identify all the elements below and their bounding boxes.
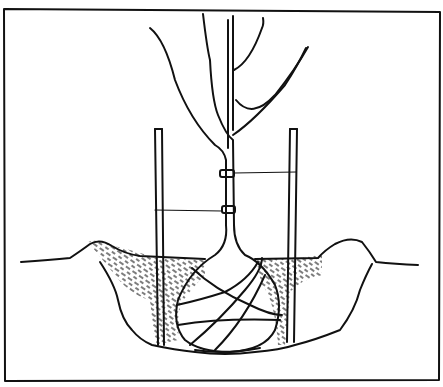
tie-lower [155, 206, 235, 213]
frame [4, 9, 440, 381]
tree-planting-illustration [0, 0, 443, 387]
sapling [150, 14, 308, 225]
stake-right [287, 129, 297, 342]
tie-upper [220, 170, 296, 177]
